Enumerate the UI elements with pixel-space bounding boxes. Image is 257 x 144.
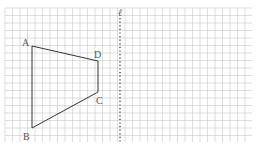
grid-lines [5,8,252,142]
vertex-label-a: A [22,37,30,48]
vertex-label-d: D [94,49,101,60]
vertex-label-c: C [96,95,103,106]
geometry-figure: ADCB ℓ [0,0,257,144]
line-label: ℓ [118,7,122,18]
vertex-label-b: B [23,131,30,142]
